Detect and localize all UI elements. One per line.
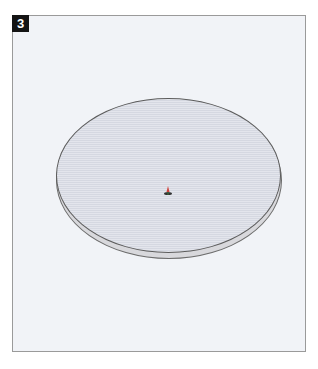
step-number-badge: 3 [12,15,29,32]
disc-top-face[interactable] [56,98,281,253]
3d-viewport[interactable] [0,0,318,369]
axes-origin-icon [162,185,174,197]
